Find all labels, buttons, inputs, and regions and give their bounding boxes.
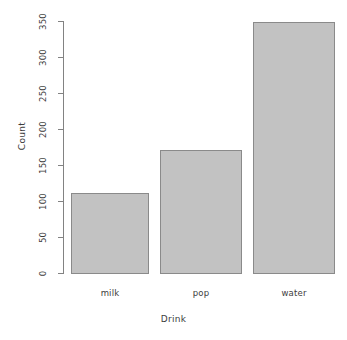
- y-axis-tick-350: [58, 21, 63, 22]
- y-axis-tick-label-50: 50: [38, 226, 49, 250]
- x-axis-tick-label-milk: milk: [70, 288, 150, 298]
- y-axis-line: [63, 21, 64, 274]
- x-axis-title: Drink: [0, 314, 347, 324]
- bar-pop[interactable]: [160, 150, 242, 274]
- x-axis-tick-label-water: water: [254, 288, 334, 298]
- y-axis-tick-100: [58, 201, 63, 202]
- y-axis-tick-label-0: 0: [38, 262, 49, 286]
- x-axis-tick-label-pop: pop: [161, 288, 241, 298]
- y-axis-tick-200: [58, 129, 63, 130]
- y-axis-tick-150: [58, 165, 63, 166]
- y-axis-tick-label-100: 100: [38, 190, 49, 214]
- y-axis-tick-label-250: 250: [38, 82, 49, 106]
- y-axis-tick-50: [58, 237, 63, 238]
- y-axis-tick-250: [58, 93, 63, 94]
- plot-area: 0 50 100 150 200 250 300 350 milk pop wa…: [0, 0, 347, 340]
- y-axis-tick-label-200: 200: [38, 118, 49, 142]
- bar-milk[interactable]: [71, 193, 149, 274]
- y-axis-tick-300: [58, 57, 63, 58]
- y-axis-tick-label-350: 350: [38, 10, 49, 34]
- y-axis-tick-label-150: 150: [38, 154, 49, 178]
- y-axis-tick-label-300: 300: [38, 46, 49, 70]
- bar-water[interactable]: [253, 22, 335, 274]
- barplot-figure: 0 50 100 150 200 250 300 350 milk pop wa…: [0, 0, 347, 340]
- y-axis-title: Count: [17, 114, 27, 158]
- y-axis-tick-0: [58, 273, 63, 274]
